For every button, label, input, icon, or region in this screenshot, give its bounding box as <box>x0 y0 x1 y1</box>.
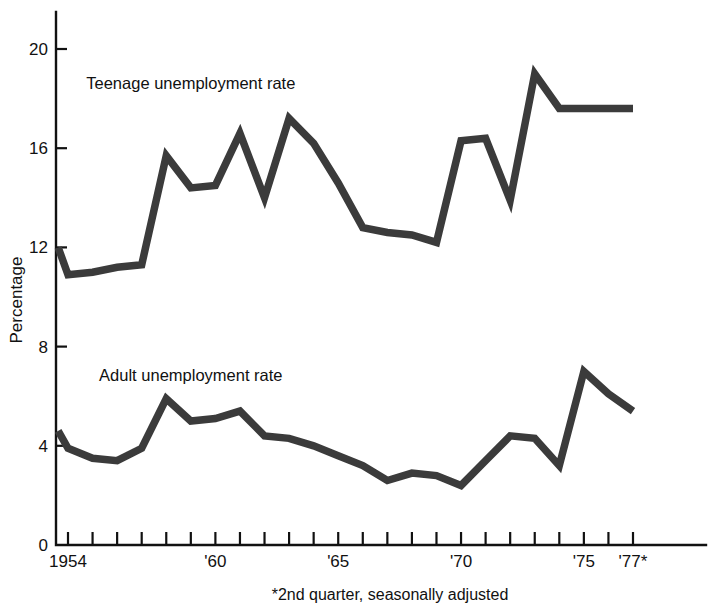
x-axis-tick-labels: 1954'60'65'70'75'77* <box>49 552 648 571</box>
x-tick-label: '70 <box>450 552 472 571</box>
x-tick-label: '77* <box>619 552 648 571</box>
chart-axes <box>56 12 706 545</box>
y-axis-title: Percentage <box>7 257 26 344</box>
teenage-series-label: Teenage unemployment rate <box>86 74 295 92</box>
x-tick-label: '75 <box>573 552 595 571</box>
y-tick-label: 4 <box>39 437 48 456</box>
chart-footnote: *2nd quarter, seasonally adjusted <box>272 586 509 603</box>
unemployment-rate-chart: 048121620 1954'60'65'70'75'77* Teenage u… <box>0 0 710 608</box>
x-tick-label: '65 <box>327 552 349 571</box>
x-tick-label: '60 <box>204 552 226 571</box>
x-tick-label: 1954 <box>49 552 87 571</box>
y-tick-label: 0 <box>39 536 48 555</box>
y-tick-label: 16 <box>29 139 48 158</box>
adult-series-label: Adult unemployment rate <box>99 366 282 384</box>
chart-canvas: 048121620 1954'60'65'70'75'77* Teenage u… <box>0 0 710 608</box>
y-tick-label: 8 <box>39 338 48 357</box>
x-axis-ticks <box>68 532 633 544</box>
teenage-unemployment-line <box>58 74 633 275</box>
y-tick-label: 12 <box>29 238 48 257</box>
adult-unemployment-line <box>58 371 633 485</box>
y-tick-label: 20 <box>29 40 48 59</box>
y-axis-tick-labels: 048121620 <box>29 40 48 555</box>
